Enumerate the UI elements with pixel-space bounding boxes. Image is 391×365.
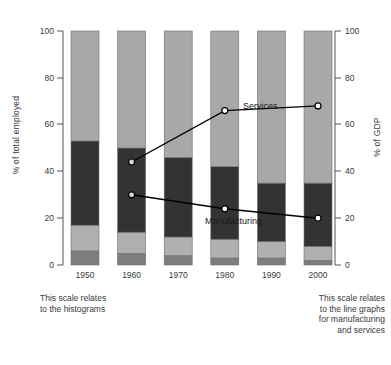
series-label-manufacturing: Manufacturing [205, 216, 262, 226]
right-tick-100: 100 [345, 26, 369, 36]
left-tick-100: 100 [30, 26, 54, 36]
bar-segment [304, 246, 332, 260]
bar-segment [118, 31, 146, 148]
data-point-marker [222, 206, 228, 212]
left-tick-60: 60 [30, 119, 54, 129]
bar-segment [211, 258, 239, 265]
left-tick-40: 40 [30, 166, 54, 176]
right-tick-20: 20 [345, 213, 369, 223]
data-point-marker [315, 215, 321, 221]
bar-segment [118, 232, 146, 253]
data-point-marker [129, 159, 135, 165]
bar-segment [304, 260, 332, 265]
left-axis [57, 31, 63, 265]
right-tick-40: 40 [345, 166, 369, 176]
data-point-marker [129, 192, 135, 198]
bars-group [71, 31, 332, 265]
left-tick-0: 0 [30, 260, 54, 270]
right-tick-80: 80 [345, 73, 369, 83]
x-tick-label: 1970 [158, 270, 198, 280]
bar-segment [164, 256, 192, 265]
bar-segment [71, 251, 99, 265]
bar-segment [164, 237, 192, 256]
chart-container: % of total employed % of GDP [0, 0, 391, 365]
bar-segment [71, 31, 99, 141]
right-tick-60: 60 [345, 119, 369, 129]
bar-segment [257, 258, 285, 265]
bar-segment [164, 31, 192, 157]
bar-segment [211, 31, 239, 167]
note-right-scale: This scale relates to the line graphs fo… [250, 293, 385, 335]
bar-segment [118, 253, 146, 265]
bar-segment [164, 157, 192, 237]
data-point-marker [222, 108, 228, 114]
bar-segment [211, 167, 239, 240]
x-tick-label: 1980 [205, 270, 245, 280]
right-axis [335, 31, 341, 265]
right-tick-0: 0 [345, 260, 369, 270]
data-point-marker [315, 103, 321, 109]
bar-segment [71, 225, 99, 251]
bar-segment [257, 242, 285, 258]
bar-segment [71, 141, 99, 225]
x-tick-label: 1990 [251, 270, 291, 280]
series-label-services: Services [243, 101, 278, 111]
note-left-scale: This scale relates to the histograms [40, 293, 160, 314]
left-tick-80: 80 [30, 73, 54, 83]
x-tick-label: 1960 [112, 270, 152, 280]
x-tick-label: 2000 [298, 270, 338, 280]
x-tick-label: 1950 [65, 270, 105, 280]
bar-segment [211, 239, 239, 258]
left-tick-20: 20 [30, 213, 54, 223]
